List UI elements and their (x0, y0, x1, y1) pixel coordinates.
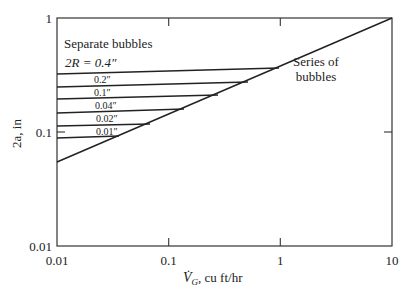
label-0.1: 0.1″ (94, 87, 111, 98)
label-0.2: 0.2″ (94, 74, 111, 85)
label-0.01: 0.01″ (96, 126, 118, 137)
line-0.04 (57, 109, 184, 113)
label-series-of: Series of (293, 54, 340, 69)
line-0.1 (57, 95, 218, 99)
x-tick-0.1: 0.1 (161, 253, 177, 268)
x-axis-units: , cu ft/hr (198, 270, 243, 285)
y-tick-0.1: 0.1 (36, 125, 52, 140)
x-tick-0.01: 0.01 (46, 253, 69, 268)
line-0.2 (57, 82, 248, 87)
bubble-size-lines (57, 68, 279, 138)
label-separate-bubbles: Separate bubbles (64, 36, 152, 51)
label-0.04: 0.04″ (95, 100, 117, 111)
y-tick-0.01: 0.01 (29, 239, 52, 254)
x-tick-1: 1 (277, 253, 284, 268)
label-0.02: 0.02″ (96, 113, 118, 124)
x-axis-label: V̇G, cu ft/hr (183, 270, 243, 287)
chart: Separate bubbles Series of bubbles 2R = … (0, 0, 410, 297)
label-2r-0.4: 2R = 0.4″ (65, 55, 117, 70)
label-bubbles: bubbles (296, 69, 336, 84)
x-tick-10: 10 (386, 253, 399, 268)
y-axis-label: 2a, in (9, 119, 24, 148)
y-tick-1: 1 (46, 11, 53, 26)
